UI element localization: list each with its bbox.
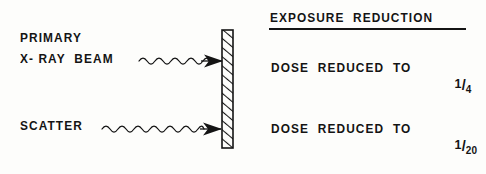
- exposure-reduction-heading: EXPOSURE REDUCTION: [270, 12, 433, 25]
- primary-beam-label-line1: PRIMARY: [20, 32, 82, 45]
- dose-row: DOSE REDUCED TO 1/4: [271, 58, 472, 112]
- heading-underline: [269, 28, 466, 30]
- fraction-denominator: 20: [466, 145, 478, 156]
- diagram-canvas: PRIMARY X- RAY BEAM SCATTER: [0, 0, 486, 174]
- dose-row-2-text: DOSE REDUCED TO: [271, 122, 411, 136]
- dose-row-1-text: DOSE REDUCED TO: [271, 61, 411, 75]
- fraction-numerator: 1: [454, 77, 461, 91]
- fraction-numerator: 1: [454, 138, 461, 152]
- scatter-label: SCATTER: [20, 120, 83, 133]
- fraction-denominator: 4: [466, 84, 472, 95]
- wavy-arrow-scatter-icon: [101, 118, 223, 140]
- primary-beam-label-line2: X- RAY BEAM: [20, 53, 114, 66]
- wavy-arrow-primary-icon: [138, 50, 224, 72]
- dose-row-1-fraction: 1/4: [428, 58, 472, 112]
- hatched-barrier: [221, 29, 234, 149]
- dose-row: DOSE REDUCED TO 1/20: [271, 119, 477, 173]
- dose-row-2-fraction: 1/20: [428, 119, 478, 173]
